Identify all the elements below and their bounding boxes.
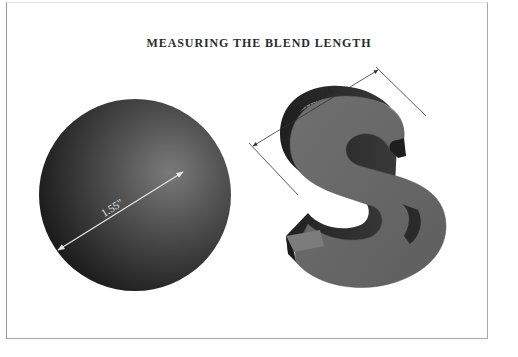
extruded-letter-s bbox=[280, 86, 446, 288]
illustration: 1.55" ESTIMATE bbox=[0, 0, 518, 357]
sphere: 1.55" bbox=[39, 99, 231, 291]
